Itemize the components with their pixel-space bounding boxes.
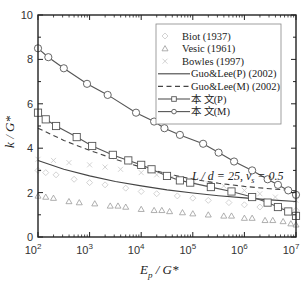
circle-marker-icon (172, 109, 177, 114)
legend: Biot (1937)Vesic (1961)Bowles (1997)Guo&… (156, 24, 281, 124)
chart: 1021031041051061070246810 Biot (1937)Ves… (0, 0, 308, 285)
square-marker-icon (172, 97, 177, 102)
x-tick-label: 106 (231, 242, 248, 256)
diamond-marker-icon (190, 195, 196, 201)
square-marker-icon (42, 116, 49, 123)
triangle-marker-icon (50, 195, 56, 200)
triangle-marker-icon (179, 210, 185, 215)
triangle-marker-icon (107, 203, 113, 208)
square-marker-icon (249, 193, 256, 200)
triangle-marker-icon (280, 218, 286, 223)
circle-marker-icon (45, 54, 52, 61)
triangle-marker-icon (115, 203, 121, 208)
x-tick-label: 103 (76, 242, 93, 256)
circle-marker-icon (161, 125, 168, 132)
x-marker-icon (103, 165, 108, 170)
x-marker-icon (257, 191, 262, 196)
legend-label: 本 文(M) (191, 105, 230, 118)
square-marker-icon (176, 177, 183, 184)
diamond-marker-icon (257, 204, 263, 210)
triangle-marker-icon (76, 200, 82, 205)
square-marker-icon (138, 161, 145, 168)
circle-marker-icon (285, 187, 292, 194)
x-marker-icon (273, 195, 278, 200)
triangle-marker-icon (66, 198, 72, 203)
square-marker-icon (148, 166, 155, 173)
y-axis-label: k / G* (2, 116, 17, 148)
y-tick-label: 6 (27, 98, 33, 110)
legend-label: Guo&Lee(P) (2002) (191, 68, 277, 80)
x-marker-icon (87, 162, 92, 167)
triangle-marker-icon (221, 213, 227, 218)
annotation: L / d = 25, νs = 0.5 (191, 169, 283, 185)
legend-label: Guo&Lee(M) (2002) (191, 81, 280, 93)
circle-marker-icon (230, 158, 237, 165)
circle-marker-icon (132, 109, 139, 116)
diamond-marker-icon (71, 176, 77, 182)
triangle-marker-icon (167, 208, 173, 213)
diamond-marker-icon (123, 185, 129, 191)
x-marker-icon (51, 158, 56, 163)
triangle-marker-icon (262, 217, 268, 222)
square-marker-icon (163, 172, 170, 179)
x-marker-icon (242, 188, 247, 193)
circle-marker-icon (215, 149, 222, 156)
x-tick-label: 102 (25, 242, 42, 256)
triangle-marker-icon (123, 204, 129, 209)
x-tick-label: 104 (128, 242, 145, 256)
triangle-marker-icon (205, 212, 211, 217)
square-marker-icon (125, 157, 132, 164)
diamond-marker-icon (226, 200, 232, 206)
square-marker-icon (264, 199, 271, 206)
diamond-marker-icon (154, 191, 160, 197)
triangle-marker-icon (288, 221, 294, 226)
diamond-marker-icon (43, 170, 49, 176)
y-tick-label: 0 (27, 231, 33, 243)
square-marker-icon (274, 203, 281, 210)
legend-label: 本 文(P) (191, 93, 227, 106)
y-tick-label: 8 (27, 53, 33, 65)
circle-marker-icon (60, 65, 67, 72)
diamond-marker-icon (241, 202, 247, 208)
triangle-marker-icon (138, 206, 144, 211)
x-marker-icon (66, 160, 71, 165)
triangle-marker-icon (190, 211, 196, 216)
circle-marker-icon (83, 80, 90, 87)
square-marker-icon (52, 122, 59, 129)
diamond-marker-icon (205, 197, 211, 203)
legend-label: Vesic (1961) (182, 43, 236, 55)
square-marker-icon (109, 151, 116, 158)
square-marker-icon (207, 183, 214, 190)
triangle-marker-icon (43, 194, 49, 199)
diamond-marker-icon (138, 188, 144, 194)
circle-marker-icon (200, 140, 207, 147)
square-marker-icon (73, 134, 80, 141)
x-tick-label: 105 (179, 242, 196, 256)
x-axis-label: Ep / G* (139, 262, 179, 280)
triangle-marker-icon (241, 215, 247, 220)
diamond-marker-icon (102, 182, 108, 188)
square-marker-icon (228, 188, 235, 195)
legend-label: Bowles (1997) (182, 56, 245, 68)
y-tick-label: 2 (27, 187, 33, 199)
square-marker-icon (285, 208, 292, 215)
x-tick-label: 107 (283, 242, 300, 256)
y-tick-label: 10 (21, 9, 33, 21)
x-marker-icon (139, 170, 144, 175)
x-marker-icon (118, 167, 123, 172)
triangle-marker-icon (159, 207, 165, 212)
diamond-marker-icon (174, 193, 180, 199)
circle-marker-icon (104, 91, 111, 98)
y-tick-label: 4 (27, 142, 33, 154)
triangle-marker-icon (270, 217, 276, 222)
triangle-marker-icon (92, 201, 98, 206)
triangle-marker-icon (229, 213, 235, 218)
square-marker-icon (89, 142, 96, 149)
legend-label: Biot (1937) (182, 31, 231, 43)
triangle-marker-icon (249, 215, 255, 220)
circle-marker-icon (176, 131, 183, 138)
diamond-marker-icon (87, 180, 93, 186)
diamond-marker-icon (53, 172, 59, 178)
triangle-marker-icon (151, 207, 157, 212)
